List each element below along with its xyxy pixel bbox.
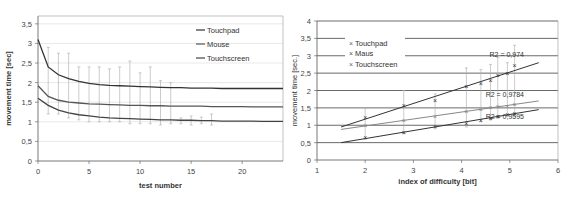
data-marker-x: ×: [513, 62, 517, 69]
x-axis-title: index of difficulty [bit]: [398, 177, 477, 186]
y-tick-label: 1,5: [22, 98, 32, 107]
x-tick-label: 20: [238, 167, 246, 176]
y-tick-label: 2: [28, 79, 32, 88]
data-marker-x: ×: [433, 113, 437, 120]
data-marker-x: ×: [505, 70, 509, 77]
x-tick-label: 3: [411, 166, 415, 175]
y-tick-label: 1: [307, 121, 311, 130]
y-tick-label: 0,5: [301, 139, 311, 148]
data-marker-x: ×: [363, 122, 367, 129]
x-tick-label: 4: [460, 166, 464, 175]
learning-curve-chart: 00,511,522,533,505101520TouchpadMouseTou…: [0, 0, 290, 198]
data-marker-x: ×: [479, 106, 483, 113]
data-marker-x: ×: [496, 72, 500, 79]
y-tick-label: 0,5: [22, 137, 32, 146]
y-tick-label: 3,5: [301, 34, 311, 43]
y-axis-title: movement time [sec.]: [290, 55, 299, 126]
data-marker-x: ×: [464, 108, 468, 115]
data-marker-x: ×: [402, 129, 406, 136]
data-marker-x: ×: [464, 120, 468, 127]
y-tick-label: 3: [307, 52, 311, 61]
data-marker-x: ×: [433, 97, 437, 104]
data-marker-x: ×: [496, 103, 500, 110]
x-tick-label: 1: [315, 166, 319, 175]
y-tick-label: 2,5: [301, 69, 311, 78]
y-tick-label: 3: [28, 39, 32, 48]
data-marker-x: ×: [464, 83, 468, 90]
data-marker-x: ×: [363, 134, 367, 141]
legend-label: Touchscreen: [355, 60, 398, 69]
legend-label: Touchpad: [207, 26, 240, 35]
r2-label: R2 = 0,974: [490, 51, 525, 58]
legend-label: Touchscreen: [207, 54, 250, 63]
data-marker-x: ×: [402, 117, 406, 124]
x-axis-title: test number: [139, 181, 182, 190]
data-marker-x: ×: [433, 123, 437, 130]
r2-label: R2 = 0,9784: [486, 91, 524, 98]
fitts-law-chart: 00,511,522,533,54123456×××××××××××××××××…: [285, 0, 574, 198]
y-tick-label: 4: [307, 17, 311, 26]
data-marker-x: ×: [479, 117, 483, 124]
legend-marker-x-icon: ×: [349, 50, 353, 57]
y-tick-label: 1: [28, 118, 32, 127]
data-marker-x: ×: [402, 102, 406, 109]
fitts-law-svg: 00,511,522,533,54123456×××××××××××××××××…: [285, 0, 574, 198]
data-marker-x: ×: [505, 103, 509, 110]
legend-label: Mouse: [207, 40, 230, 49]
y-axis-title: movement time [sec]: [4, 51, 13, 126]
x-tick-label: 6: [556, 166, 560, 175]
data-marker-x: ×: [488, 104, 492, 111]
data-marker-x: ×: [363, 114, 367, 121]
x-tick-label: 10: [136, 167, 144, 176]
legend-label: Maus: [355, 49, 374, 58]
legend-marker-x-icon: ×: [349, 40, 353, 47]
x-tick-label: 5: [508, 166, 512, 175]
x-tick-label: 15: [187, 167, 195, 176]
y-tick-label: 0: [28, 157, 32, 166]
legend-label: Touchpad: [355, 39, 388, 48]
r2-label: R2 = 0,9595: [486, 113, 524, 120]
x-tick-label: 5: [87, 167, 91, 176]
learning-curve-svg: 00,511,522,533,505101520TouchpadMouseTou…: [0, 0, 290, 198]
y-tick-label: 3,5: [22, 20, 32, 29]
y-tick-label: 1,5: [301, 104, 311, 113]
data-marker-x: ×: [513, 101, 517, 108]
y-tick-label: 2: [307, 87, 311, 96]
x-tick-label: 0: [36, 167, 40, 176]
legend-marker-x-icon: ×: [349, 61, 353, 68]
data-marker-x: ×: [488, 77, 492, 84]
y-tick-label: 2,5: [22, 59, 32, 68]
x-tick-label: 2: [363, 166, 367, 175]
y-tick-label: 0: [307, 156, 311, 165]
data-marker-x: ×: [479, 80, 483, 87]
